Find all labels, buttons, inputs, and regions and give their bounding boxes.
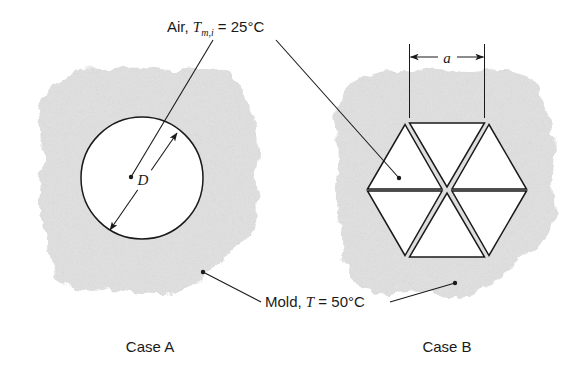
air-leader-dot-case-b	[397, 176, 401, 180]
mold-label-prefix: Mold,	[265, 293, 306, 310]
case-b-caption: Case B	[422, 338, 471, 355]
air-leader-dot-case-a	[129, 175, 133, 179]
mold-leader-case-a	[203, 272, 261, 302]
air-label-subscript: m,i	[201, 27, 214, 38]
case-a-caption: Case A	[126, 338, 174, 355]
side-length-label: a	[443, 50, 451, 66]
diameter-label: D	[137, 172, 149, 188]
air-label-text: Air, Tm,i = 25°C	[167, 18, 264, 38]
mold-leader-dot-case-b	[453, 281, 457, 285]
mold-label-value: = 50°C	[314, 293, 365, 310]
air-label-value: = 25°C	[214, 18, 265, 35]
case-a-group: D Case A	[20, 50, 280, 355]
mold-duct-comparison-figure: D Case A	[0, 0, 588, 369]
air-label-prefix: Air,	[167, 18, 193, 35]
mold-label-text: Mold, T = 50°C	[265, 293, 365, 310]
mold-leader-dot-case-a	[201, 270, 205, 274]
